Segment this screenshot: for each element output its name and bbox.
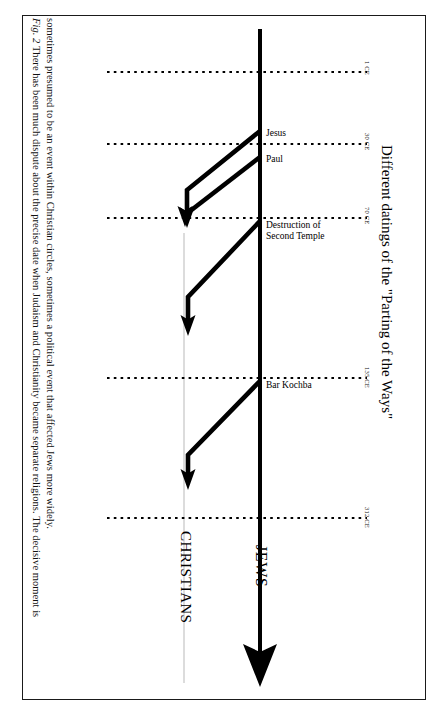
timeline-svg (22, 15, 426, 700)
timeline-plot: 1 CE 30 CE 70 CE 135 CE 312 CE Jesus Pau… (22, 15, 426, 700)
date-label-135ce: 135 CE (363, 367, 371, 388)
date-label-30ce: 30 CE (363, 133, 371, 150)
group-label-christians: CHRISTIANS (177, 531, 194, 623)
date-label-1ce: 1 CE (363, 61, 371, 75)
date-label-70ce: 70 CE (363, 207, 371, 224)
event-label-bar-kochba: Bar Kochba (266, 380, 312, 391)
event-label-second-temple: Destruction of Second Temple (266, 220, 325, 242)
branch-arrow-bar-kochba (181, 381, 261, 490)
figure-root: Fig. 2 There has been much dispute about… (0, 0, 448, 714)
branch-arrow-second-temple (181, 221, 261, 336)
event-label-paul: Paul (266, 154, 283, 165)
group-label-jews: JEWS (252, 545, 270, 587)
event-label-jesus: Jesus (266, 128, 286, 139)
branch-arrow-jesus (180, 131, 261, 228)
date-gridlines (107, 72, 367, 518)
date-label-312ce: 312 CE (363, 507, 371, 528)
